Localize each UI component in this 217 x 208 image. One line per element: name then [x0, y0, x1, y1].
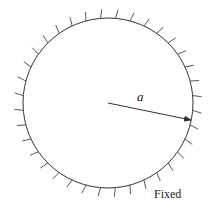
hatch-tick — [98, 188, 101, 197]
hatch-tick — [70, 17, 72, 26]
hatch-tick — [24, 62, 31, 67]
hatch-tick — [101, 9, 102, 18]
hatch-tick — [193, 96, 202, 97]
hatch-tick — [30, 152, 38, 156]
hatch-tick — [15, 93, 24, 96]
hatch-tick — [14, 109, 23, 110]
fixed-circle-diagram — [0, 0, 217, 208]
hatch-tick — [157, 27, 164, 33]
hatch-tick — [115, 10, 118, 19]
hatch-tick — [43, 35, 48, 43]
hatch-tick — [157, 173, 161, 181]
hatch-tick — [130, 13, 134, 21]
hatch-tick — [178, 51, 186, 55]
hatch-tick — [168, 38, 176, 43]
hatch-tick — [190, 125, 198, 129]
hatch-tick — [178, 152, 184, 159]
radius-arrow — [108, 103, 191, 120]
hatch-tick — [40, 163, 48, 168]
hatch-tick — [32, 48, 38, 55]
hatch-tick — [193, 110, 202, 113]
hatch-tick — [67, 180, 72, 187]
hatch-tick — [185, 139, 192, 144]
hatch-tick — [53, 173, 60, 179]
hatch-tick — [168, 163, 173, 171]
hatch-tick — [22, 139, 31, 141]
hatch-tick — [114, 188, 115, 197]
hatch-tick — [144, 180, 146, 189]
hatch-tick — [185, 65, 194, 67]
hatch-tick — [56, 25, 60, 33]
hatch-tick — [18, 77, 26, 81]
hatch-tick — [144, 19, 149, 26]
hatch-tick — [82, 185, 86, 193]
radius-label: a — [137, 89, 144, 105]
fixed-label: Fixed — [154, 187, 181, 202]
